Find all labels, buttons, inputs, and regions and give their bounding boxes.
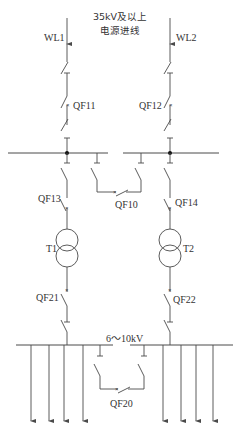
bus-tie-qf20: × QF20 — [94, 345, 147, 409]
qf10-mark-icon: × — [113, 189, 117, 195]
qf13-label: QF13 — [38, 193, 61, 204]
t1-label: T1 — [46, 243, 57, 254]
bus-tie-qf10: × QF10 — [91, 153, 144, 210]
qf20-mark-icon: × — [115, 386, 119, 392]
qf21-label: QF21 — [36, 292, 59, 303]
transformer-branch-t1: QF13 × T1 × QF21 — [36, 153, 78, 345]
feeders-right — [163, 345, 213, 421]
transformer-t2-secondary — [159, 245, 181, 267]
transformer-t1-secondary — [56, 245, 78, 267]
title-incoming: 电源进线 — [100, 25, 140, 36]
qf11-label: QF11 — [73, 100, 95, 111]
wl2-label: WL2 — [176, 32, 197, 43]
t2-label: T2 — [183, 243, 194, 254]
title-voltage: 35kV及以上 — [93, 11, 147, 22]
incoming-line-wl2: WL2 × QF12 — [139, 18, 197, 153]
single-line-diagram: 35kV及以上 电源进线 WL1 × QF11 WL2 × QF12 — [0, 0, 241, 440]
qf22-label: QF22 — [173, 294, 196, 305]
breaker-qf21 — [61, 294, 67, 306]
wl1-label: WL1 — [44, 32, 65, 43]
incoming-line-wl1: WL1 × QF11 — [44, 18, 95, 153]
disconnector-wl2 — [164, 62, 171, 74]
lv-bus-label: 6～10kV — [106, 333, 144, 344]
qf10-label: QF10 — [115, 199, 138, 210]
qf12-label: QF12 — [139, 100, 162, 111]
feeders-left — [31, 345, 83, 421]
qf14-label: QF14 — [175, 197, 198, 208]
breaker-qf22 — [164, 294, 170, 306]
qf21-mark-icon: × — [65, 287, 69, 293]
qf20-label: QF20 — [110, 398, 133, 409]
disconnector-wl1 — [61, 62, 68, 74]
transformer-branch-t2: × QF14 T2 × QF22 — [159, 153, 198, 345]
qf22-mark-icon: × — [168, 287, 172, 293]
